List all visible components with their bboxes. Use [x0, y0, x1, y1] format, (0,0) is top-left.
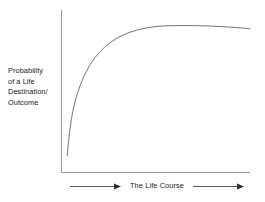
- y-axis-label-line-4: Outcome: [8, 98, 60, 109]
- figure-canvas: Probability of a Life Destination/ Outco…: [0, 0, 265, 202]
- y-axis-label-line-1: Probability: [8, 66, 60, 77]
- x-axis-right-arrow-icon: [193, 184, 244, 190]
- y-axis-label-line-2: of a Life: [8, 77, 60, 88]
- y-axis-label-line-3: Destination/: [8, 87, 60, 98]
- y-axis-label: Probability of a Life Destination/ Outco…: [8, 66, 60, 108]
- x-axis-left-arrow-icon: [70, 184, 121, 190]
- x-axis-label: The Life Course: [130, 181, 184, 190]
- probability-curve: [67, 26, 250, 156]
